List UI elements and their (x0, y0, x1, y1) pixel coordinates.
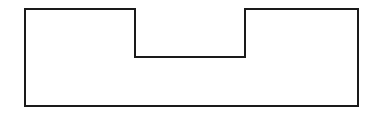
notched-rectangle-outline (25, 9, 358, 106)
diagram-canvas (0, 0, 370, 116)
